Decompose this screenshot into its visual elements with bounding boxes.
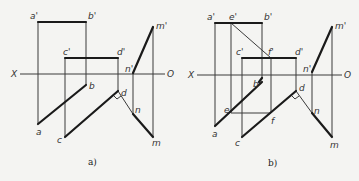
label-a-prime: a' <box>207 12 215 22</box>
line-n-m <box>133 114 153 137</box>
label-d: d <box>121 88 127 98</box>
label-n: n <box>314 106 320 116</box>
caption-b: b) <box>268 158 277 168</box>
label-d-prime: d' <box>117 47 125 57</box>
line-n-m <box>312 113 332 137</box>
label-b: b <box>253 79 259 89</box>
panel-a: X O a' b' c' d' m' n' b <box>10 11 174 167</box>
label-m-prime: m' <box>156 21 167 31</box>
right-angle-marker <box>114 96 121 99</box>
label-a: a <box>36 127 42 137</box>
label-b-prime: b' <box>88 11 96 21</box>
axis-label-x: X <box>187 70 195 80</box>
axis-label-o: O <box>344 70 351 80</box>
line-a-b <box>38 85 86 124</box>
axis-label-o: O <box>167 69 174 79</box>
line-c-d <box>65 91 118 137</box>
label-f: f <box>271 116 276 126</box>
orthographic-projection-figure: X O a' b' c' d' m' n' b <box>0 0 359 181</box>
label-c: c <box>57 135 62 145</box>
label-a: a <box>212 129 218 139</box>
right-angle-marker <box>292 96 299 99</box>
label-n-prime: n' <box>125 64 133 74</box>
line-n-prime-m-prime <box>133 27 153 73</box>
label-f-prime: f' <box>268 47 274 57</box>
label-n-prime: n' <box>303 64 311 74</box>
panel-b: X O a' e' b' <box>187 12 351 168</box>
label-d-prime: d' <box>295 47 303 57</box>
label-c-prime: c' <box>63 47 70 57</box>
label-n: n <box>135 105 141 115</box>
line-c-d <box>242 91 296 137</box>
label-c-prime: c' <box>236 47 243 57</box>
label-m-prime: m' <box>335 21 346 31</box>
label-d: d <box>299 83 305 93</box>
label-b-prime: b' <box>264 12 272 22</box>
label-a-prime: a' <box>30 11 38 21</box>
label-c: c <box>235 138 240 148</box>
label-m: m <box>330 140 339 150</box>
perpendicular-d-n <box>296 91 312 113</box>
axis-label-x: X <box>10 69 18 79</box>
label-b: b <box>89 81 95 91</box>
diagram-canvas: X O a' b' c' d' m' n' b <box>0 0 359 181</box>
label-e: e <box>224 105 230 115</box>
caption-a: a) <box>88 157 97 167</box>
label-e-prime: e' <box>229 12 237 22</box>
label-m: m <box>152 138 161 148</box>
line-n-prime-m-prime <box>312 27 332 72</box>
